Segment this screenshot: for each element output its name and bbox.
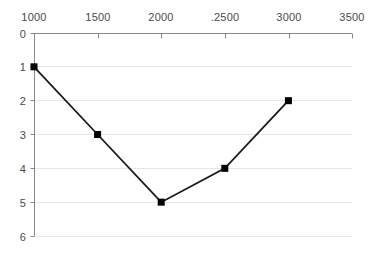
y-tick-label: 0 (0, 28, 26, 40)
data-point-marker (158, 199, 165, 206)
data-point-marker (221, 165, 228, 172)
y-tick-label: 1 (0, 61, 26, 73)
data-point-marker (31, 63, 38, 70)
data-point-marker (285, 97, 292, 104)
x-tick-label: 2000 (148, 11, 173, 23)
x-tick-label: 1000 (21, 11, 46, 23)
x-tick-label: 1500 (85, 11, 110, 23)
x-tick-label: 3000 (276, 11, 301, 23)
y-tick-label: 6 (0, 231, 26, 243)
data-point-marker (94, 131, 101, 138)
y-tick-label: 4 (0, 163, 26, 175)
x-tick-label: .2500 (211, 11, 240, 23)
line-chart: 100015002000.250030003500 0123456 (0, 0, 376, 255)
y-tick-label: 3 (0, 129, 26, 141)
chart-plot-area (0, 0, 376, 255)
y-tick-label: 2 (0, 95, 26, 107)
y-tick-label: 5 (0, 197, 26, 209)
gridlines (34, 34, 352, 237)
x-tick-label: 3500 (339, 11, 364, 23)
